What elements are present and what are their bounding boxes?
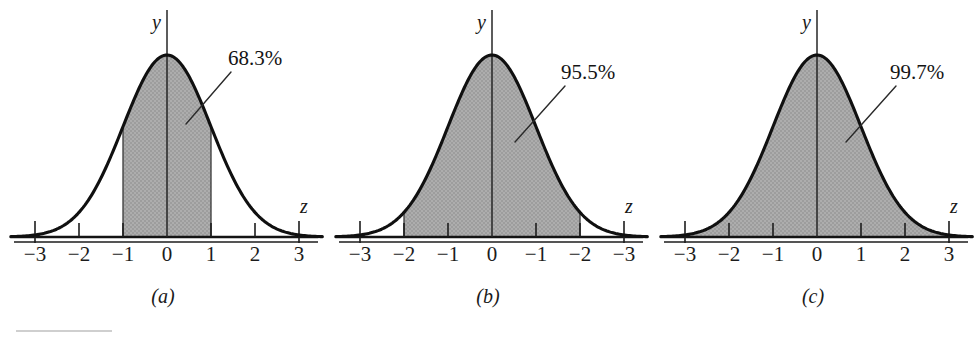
z-axis-label-a: z [300, 196, 308, 216]
tick-label-b-6: −3 [604, 244, 644, 265]
panel-caption-b: (b) [325, 286, 651, 306]
tick-label-a-0: −3 [15, 244, 55, 265]
percent-label-a: 68.3% [228, 48, 282, 69]
tick-label-a-6: 3 [279, 244, 319, 265]
scan-artifact-line [16, 330, 112, 332]
panel-caption-a: (a) [0, 286, 326, 306]
y-axis-label-c: y [802, 12, 811, 32]
normal-distribution-figure: y z −3 −2 −1 0 1 2 3 68.3% (a) [0, 0, 976, 342]
tick-label-c-4: 1 [841, 244, 881, 265]
tick-label-c-3: 0 [797, 244, 837, 265]
tick-label-c-0: −3 [665, 244, 705, 265]
percent-label-b: 95.5% [561, 62, 615, 83]
tick-label-b-0: −3 [340, 244, 380, 265]
tick-label-c-6: 3 [929, 244, 969, 265]
tick-label-a-3: 0 [147, 244, 187, 265]
z-axis-label-b: z [625, 196, 633, 216]
z-axis-label-c: z [950, 196, 958, 216]
tick-label-a-1: −2 [59, 244, 99, 265]
panel-b: y z −3 −2 −1 0 −1 −2 −3 95.5% (b) [325, 0, 651, 342]
tick-label-b-3: 0 [472, 244, 512, 265]
tick-label-b-1: −2 [384, 244, 424, 265]
tick-label-c-1: −2 [709, 244, 749, 265]
tick-label-c-5: 2 [885, 244, 925, 265]
panel-caption-c: (c) [650, 286, 976, 306]
tick-label-b-4: −1 [516, 244, 556, 265]
panel-a: y z −3 −2 −1 0 1 2 3 68.3% (a) [0, 0, 326, 342]
percent-label-c: 99.7% [890, 62, 944, 83]
y-axis-label-b: y [477, 12, 486, 32]
tick-label-c-2: −1 [753, 244, 793, 265]
y-axis-label-a: y [152, 12, 161, 32]
tick-label-a-5: 2 [235, 244, 275, 265]
tick-label-b-2: −1 [428, 244, 468, 265]
tick-label-a-2: −1 [103, 244, 143, 265]
tick-label-b-5: −2 [560, 244, 600, 265]
panel-c: y z −3 −2 −1 0 1 2 3 99.7% (c) [650, 0, 976, 342]
tick-label-a-4: 1 [191, 244, 231, 265]
